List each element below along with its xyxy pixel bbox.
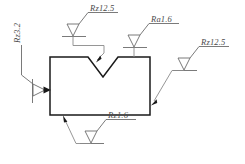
surface-finish-symbol-icon: [33, 84, 45, 96]
surface-finish-symbol-icon: [67, 24, 79, 36]
drawing-svg: Rz12.5 Ra1.6 Rz12.5: [0, 0, 245, 164]
technical-drawing-canvas: Rz12.5 Ra1.6 Rz12.5: [0, 0, 245, 164]
symbol-tail: [190, 47, 199, 59]
annotation-right[interactable]: Rz12.5: [151, 37, 229, 106]
leader-line-right: [154, 71, 184, 102]
annotation-label-left: Rz3.2: [12, 22, 22, 44]
annotation-label-bottom: Rz1.6: [107, 110, 129, 120]
annotation-label-right: Rz12.5: [200, 37, 226, 47]
surface-finish-symbol-icon: [128, 35, 140, 47]
leader-line-bottom: [65, 120, 91, 144]
annotation-top-right[interactable]: Ra1.6: [123, 14, 179, 57]
annotation-label-top-left: Rz12.5: [89, 3, 115, 13]
symbol-tail: [140, 24, 149, 36]
part-outline-block: [50, 57, 150, 115]
symbol-tail: [97, 120, 106, 132]
leader-arrowhead: [63, 116, 67, 123]
annotation-top-left[interactable]: Rz12.5: [62, 3, 118, 63]
surface-finish-symbol-icon: [178, 58, 190, 70]
annotation-left[interactable]: Rz3.2: [12, 22, 51, 103]
annotation-label-top-right: Ra1.6: [150, 14, 173, 24]
surface-finish-symbol-icon: [85, 131, 97, 143]
symbol-tail: [22, 75, 34, 84]
symbol-tail: [79, 13, 88, 25]
